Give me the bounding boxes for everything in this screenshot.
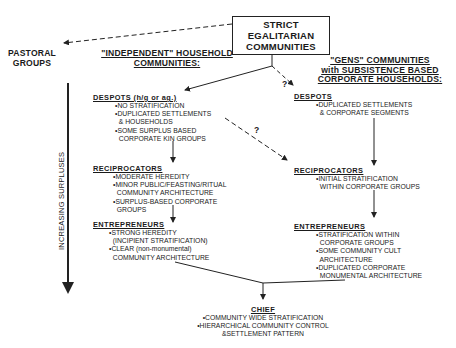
- left-entrepreneurs-title: ENTREPRENEURS: [93, 220, 209, 229]
- list-item: •STRATIFICATION WITHIN: [316, 231, 422, 239]
- root-line1: STRICT EGALITARIAN: [237, 19, 325, 41]
- left-despots-title: DESPOTS (h/g or ag.): [93, 93, 211, 102]
- list-item: •DUPLICATED SETTLEMENTS: [115, 110, 211, 118]
- list-item: •MODERATE HEREDITY: [113, 173, 226, 181]
- left-header-line2: COMMUNITIES:: [134, 58, 200, 68]
- right-header-line2: with SUBSISTENCE BASED: [321, 65, 439, 75]
- left-despots-node: DESPOTS (h/g or ag.) •NO STRATIFICATION …: [93, 93, 211, 143]
- list-item: & HOUSEHOLDS: [115, 118, 211, 126]
- chief-node: CHIEF •COMMUNITY WIDE STRATIFICATION •HI…: [183, 305, 343, 339]
- list-item: •COMMUNITY WIDE STRATIFICATION: [183, 314, 343, 322]
- left-reciprocators-title: RECIPROCATORS: [93, 164, 226, 173]
- list-item: •SOME SURPLUS BASED: [115, 127, 211, 135]
- right-header-line1: "GENS" COMMUNITIES: [330, 55, 430, 65]
- list-item: COMMUNITY ARCHITECTURE: [109, 254, 209, 262]
- right-reciprocators-node: RECIPROCATORS •INITIAL STRATIFICATION WI…: [294, 166, 420, 191]
- list-item: & CORPORATE SEGMENTS: [316, 109, 412, 117]
- list-item: ARCHITECTURE: [316, 256, 422, 264]
- question-mark-top: ?: [282, 80, 287, 90]
- pastoral-groups-node: PASTORAL GROUPS: [0, 49, 64, 68]
- right-entrepreneurs-node: ENTREPRENEURS •STRATIFICATION WITHIN COR…: [294, 222, 422, 280]
- left-column-header: "INDEPENDENT" HOUSEHOLD COMMUNITIES:: [92, 49, 242, 68]
- axis-label-increasing-surpluses: INCREASING SURPLUSES: [57, 152, 66, 250]
- list-item: •SURPLUS-BASED CORPORATE: [113, 198, 226, 206]
- list-item: CORPORATE GROUPS: [316, 239, 422, 247]
- list-item: (INCIPIENT STRATIFICATION): [109, 237, 209, 245]
- right-entrepreneurs-title: ENTREPRENEURS: [294, 222, 422, 231]
- left-header-line1: "INDEPENDENT" HOUSEHOLD: [101, 48, 233, 58]
- list-item: &SETTLEMENT PATTERN: [183, 330, 343, 338]
- list-item: •CLEAR (non-monumental): [109, 245, 209, 253]
- right-column-header: "GENS" COMMUNITIES with SUBSISTENCE BASE…: [305, 56, 455, 85]
- list-item: •MINOR PUBLIC/FEASTING/RITUAL: [113, 181, 226, 189]
- list-item: •SOME COMMUNITY CULT: [316, 247, 422, 255]
- list-item: CORPORATE KIN GROUPS: [115, 135, 211, 143]
- root-line2: COMMUNITIES: [237, 41, 325, 52]
- chief-title: CHIEF: [183, 305, 343, 314]
- left-reciprocators-node: RECIPROCATORS •MODERATE HEREDITY •MINOR …: [93, 164, 226, 214]
- root-node: STRICT EGALITARIAN COMMUNITIES: [232, 16, 330, 55]
- list-item: •INITIAL STRATIFICATION: [316, 175, 420, 183]
- right-reciprocators-title: RECIPROCATORS: [294, 166, 420, 175]
- list-item: MONUMENTAL ARCHITECTURE: [316, 272, 422, 280]
- list-item: COMMUNITY ARCHITECTURE: [113, 189, 226, 197]
- right-despots-node: DESPOTS •DUPLICATED SETTLEMENTS & CORPOR…: [294, 92, 412, 117]
- question-mark-mid: ?: [254, 126, 259, 136]
- pastoral-line2: GROUPS: [0, 59, 64, 69]
- right-despots-title: DESPOTS: [294, 92, 412, 101]
- list-item: •DUPLICATED SETTLEMENTS: [316, 101, 412, 109]
- list-item: •HIERARCHICAL COMMUNITY CONTROL: [183, 322, 343, 330]
- list-item: GROUPS: [113, 206, 226, 214]
- list-item: •NO STRATIFICATION: [115, 102, 211, 110]
- left-entrepreneurs-node: ENTREPRENEURS •STRONG HEREDITY (INCIPIEN…: [93, 220, 209, 262]
- list-item: •DUPLICATED CORPORATE: [316, 264, 422, 272]
- list-item: •STRONG HEREDITY: [109, 229, 209, 237]
- list-item: WITHIN CORPORATE GROUPS: [316, 183, 420, 191]
- right-header-line3: CORPORATE HOUSEHOLDS:: [318, 74, 442, 84]
